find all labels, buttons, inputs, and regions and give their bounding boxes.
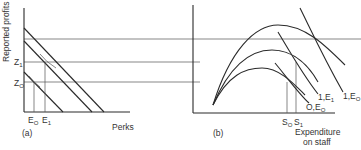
curve-label-1-e1: 1,E1 [318,92,335,103]
budget-line-inner [24,72,63,112]
z1-label: Z1 [14,57,23,68]
indifference-curve-0 [29,76,40,87]
x-axis-label-line1: Expenditure [295,127,341,137]
y-axis-label: Reported profits [1,2,11,62]
curve-label-1-e0: 1,EO [343,91,361,102]
panel-b: O,EO 1,E1 1,EO SO S1 Expenditure on staf… [193,5,361,147]
x-axis-label-line2: on staff [303,137,331,147]
diagram-canvas: Reported profits Z1 ZO EO E1 (a) Perks O… [0,0,361,150]
curve-label-0-e0: O,EO [306,102,326,113]
x-axis-label: Perks [112,122,134,132]
panel-a: Reported profits Z1 ZO EO E1 (a) Perks [1,2,134,138]
e0-label: EO [28,115,39,126]
tangent-1-e1 [278,32,318,94]
panel-b-tag: (b) [213,128,224,138]
panel-a-tag: (a) [22,128,33,138]
e1-label: E1 [42,115,52,126]
s0-label: SO [282,117,293,128]
z0-label: ZO [14,78,24,89]
tangent-1-e0 [300,8,343,92]
profit-curve-bottom [213,68,305,105]
budget-line-outer [24,28,104,112]
